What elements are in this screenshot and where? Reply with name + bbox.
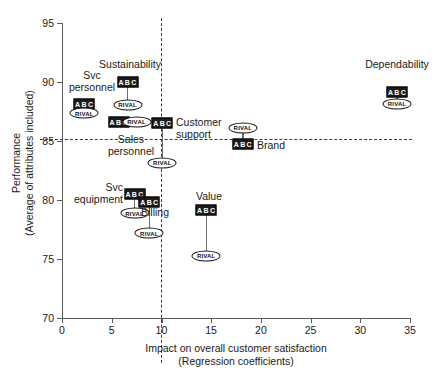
point-label-customer-support-line1: Customer (176, 116, 222, 128)
rival-marker-sales-personnel[interactable]: RIVAL (122, 116, 151, 127)
x-tick-label-5: 5 (101, 324, 123, 336)
x-tick-label-15: 15 (200, 324, 222, 336)
reference-line-vertical-impact-threshold (161, 18, 162, 363)
rival-marker-brand[interactable]: RIVAL (228, 122, 257, 133)
point-label-svc-equipment-line1: Svc (74, 181, 123, 193)
x-axis-title-line1: Impact on overall customer satisfaction (62, 342, 410, 355)
rival-marker-value[interactable]: RIVAL (192, 250, 221, 261)
point-label-customer-support: Customer support (176, 116, 222, 140)
abc-marker-dependability[interactable]: ABC (387, 86, 408, 97)
abc-marker-label: ABC (196, 206, 216, 213)
rival-marker-label: RIVAL (388, 101, 407, 107)
abc-marker-customer-support[interactable]: ABC (152, 117, 173, 128)
abc-marker-brand[interactable]: ABC (232, 139, 253, 150)
point-label-customer-support-line2: support (176, 128, 222, 140)
x-tick-15 (211, 318, 212, 323)
y-tick-90 (57, 82, 62, 83)
point-label-svc-personnel: Svc personnel (69, 69, 115, 93)
rival-marker-dependability[interactable]: RIVAL (383, 98, 412, 109)
rival-marker-label: RIVAL (127, 119, 146, 125)
point-label-dependability: Dependability (365, 58, 429, 70)
y-tick-75 (57, 259, 62, 260)
abc-marker-sustainability[interactable]: ABC (117, 77, 138, 88)
x-axis-title-line2: (Regression coefficients) (62, 355, 410, 368)
point-label-sustainability: Sustainability (99, 58, 161, 70)
rival-marker-label: RIVAL (118, 102, 137, 108)
point-label-svc-personnel-line2: personnel (69, 81, 115, 93)
x-tick-label-0: 0 (51, 324, 73, 336)
x-axis-title: Impact on overall customer satisfaction … (62, 342, 410, 368)
x-tick-label-35: 35 (399, 324, 421, 336)
abc-marker-label: ABC (152, 119, 172, 126)
y-axis-title-line1: Performance (10, 8, 23, 318)
point-label-billing: Billing (141, 206, 169, 218)
rival-marker-label: RIVAL (75, 110, 94, 116)
point-label-svc-equipment: Svc equipment (74, 181, 123, 205)
abc-marker-label: ABC (139, 199, 159, 206)
rival-marker-label: RIVAL (197, 253, 216, 259)
point-label-sales-personnel-line2: personnel (108, 145, 154, 157)
x-tick-30 (360, 318, 361, 323)
y-tick-80 (57, 200, 62, 201)
rival-marker-customer-support[interactable]: RIVAL (148, 157, 177, 168)
abc-marker-label: ABC (117, 79, 137, 86)
rival-marker-svc-personnel[interactable]: RIVAL (70, 108, 99, 119)
x-axis-line (62, 318, 410, 319)
point-label-value: Value (196, 190, 222, 202)
x-tick-label-30: 30 (349, 324, 371, 336)
point-label-sales-personnel: Sales personnel (108, 133, 154, 157)
rival-marker-label: RIVAL (234, 125, 253, 131)
rival-marker-billing[interactable]: RIVAL (135, 228, 164, 239)
rival-marker-label: RIVAL (153, 160, 172, 166)
y-axis-line (62, 23, 63, 318)
x-tick-25 (311, 318, 312, 323)
x-tick-20 (261, 318, 262, 323)
point-label-brand: Brand (257, 139, 285, 151)
rival-marker-sustainability[interactable]: RIVAL (113, 99, 142, 110)
x-tick-label-25: 25 (300, 324, 322, 336)
y-tick-95 (57, 23, 62, 24)
abc-marker-label: ABC (233, 141, 253, 148)
x-tick-35 (410, 318, 411, 323)
abc-marker-value[interactable]: ABC (196, 204, 217, 215)
abc-marker-label: ABC (74, 100, 94, 107)
point-label-svc-personnel-line1: Svc (69, 69, 115, 81)
y-axis-title: Performance (Average of attributes inclu… (10, 8, 36, 318)
x-tick-label-20: 20 (250, 324, 272, 336)
y-axis-title-line2: (Average of attributes included) (23, 8, 36, 318)
point-label-svc-equipment-line2: equipment (74, 193, 123, 205)
point-label-sales-personnel-line1: Sales (108, 133, 154, 145)
rival-marker-label: RIVAL (140, 230, 159, 236)
x-tick-0 (62, 318, 63, 323)
abc-marker-label: ABC (387, 88, 407, 95)
reference-line-horizontal-performance-average (40, 139, 412, 140)
scatter-chart: 70 75 80 85 90 95 0 5 10 15 20 25 30 35 … (0, 0, 434, 382)
stem-value (206, 210, 207, 256)
x-tick-5 (112, 318, 113, 323)
y-tick-85 (57, 141, 62, 142)
